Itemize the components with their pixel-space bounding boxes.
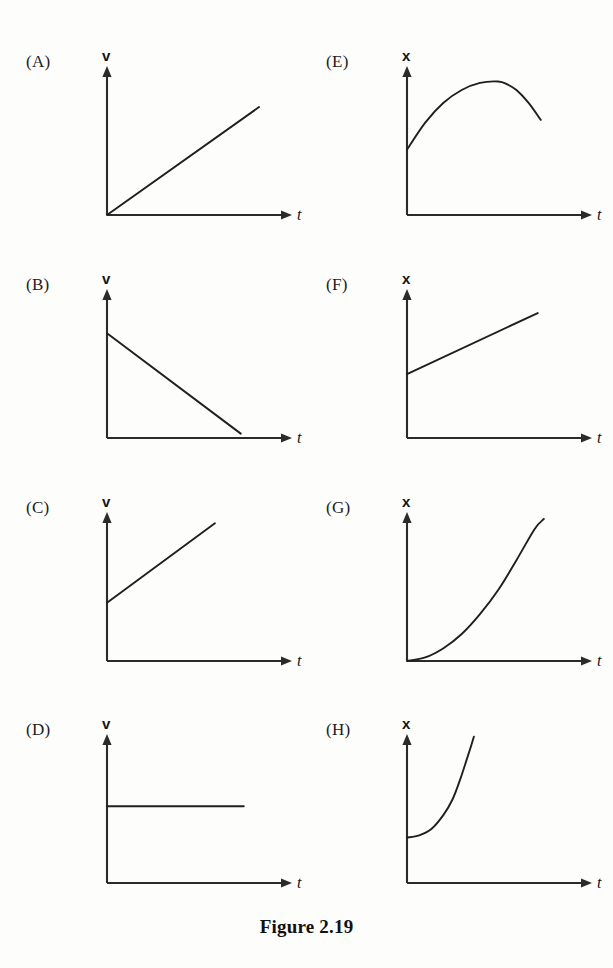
figure-2-19: (A) vt (B) vt (C) vt (D) vt (E) xt (F) x… bbox=[0, 0, 613, 968]
panel-C-plot: vt bbox=[0, 478, 306, 708]
figure-caption: Figure 2.19 bbox=[0, 916, 613, 938]
panel-D: (D) vt bbox=[0, 700, 306, 930]
panel-F: (F) xt bbox=[300, 255, 606, 485]
y-axis-arrow-H bbox=[402, 734, 411, 745]
y-axis-arrow-F bbox=[402, 289, 411, 300]
x-axis-arrow-A bbox=[281, 210, 292, 219]
x-axis-arrow-C bbox=[281, 656, 292, 665]
data-curve-H bbox=[407, 737, 474, 838]
y-axis-label-D: v bbox=[102, 715, 111, 732]
y-axis-label-H: x bbox=[402, 715, 411, 732]
y-axis-arrow-C bbox=[102, 512, 111, 523]
y-axis-arrow-E bbox=[402, 66, 411, 77]
panel-H: (H) xt bbox=[300, 700, 606, 930]
panel-F-plot: xt bbox=[300, 255, 606, 485]
x-axis-arrow-G bbox=[581, 656, 592, 665]
x-axis-label-G: t bbox=[597, 652, 602, 669]
data-curve-A bbox=[107, 107, 259, 215]
data-curve-E bbox=[407, 81, 541, 149]
panel-G: (G) xt bbox=[300, 478, 606, 708]
x-axis-label-F: t bbox=[597, 429, 602, 446]
panel-E: (E) xt bbox=[300, 32, 606, 262]
panel-D-plot: vt bbox=[0, 700, 306, 930]
data-curve-B bbox=[107, 333, 241, 433]
x-axis-arrow-F bbox=[581, 433, 592, 442]
y-axis-label-A: v bbox=[102, 47, 111, 64]
data-curve-F bbox=[407, 313, 538, 374]
data-curve-G bbox=[407, 519, 544, 661]
y-axis-label-E: x bbox=[402, 47, 411, 64]
y-axis-arrow-A bbox=[102, 66, 111, 77]
panel-A-plot: vt bbox=[0, 32, 306, 262]
panel-B-plot: vt bbox=[0, 255, 306, 485]
x-axis-arrow-B bbox=[281, 433, 292, 442]
x-axis-label-E: t bbox=[597, 206, 602, 223]
y-axis-label-F: x bbox=[402, 270, 411, 287]
panel-C: (C) vt bbox=[0, 478, 306, 708]
panel-H-plot: xt bbox=[300, 700, 606, 930]
y-axis-label-C: v bbox=[102, 493, 111, 510]
data-curve-C bbox=[107, 523, 215, 603]
x-axis-label-H: t bbox=[597, 874, 602, 891]
x-axis-arrow-H bbox=[581, 878, 592, 887]
x-axis-arrow-D bbox=[281, 878, 292, 887]
y-axis-label-B: v bbox=[102, 270, 111, 287]
panel-A: (A) vt bbox=[0, 32, 306, 262]
panel-E-plot: xt bbox=[300, 32, 606, 262]
panel-B: (B) vt bbox=[0, 255, 306, 485]
y-axis-label-G: x bbox=[402, 493, 411, 510]
y-axis-arrow-D bbox=[102, 734, 111, 745]
x-axis-arrow-E bbox=[581, 210, 592, 219]
y-axis-arrow-B bbox=[102, 289, 111, 300]
panel-G-plot: xt bbox=[300, 478, 606, 708]
y-axis-arrow-G bbox=[402, 512, 411, 523]
